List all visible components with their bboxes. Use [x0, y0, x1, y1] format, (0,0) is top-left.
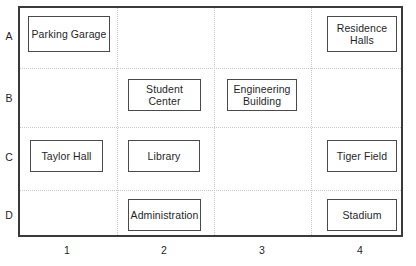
- building-box-residence-halls[interactable]: Residence Halls: [327, 16, 397, 52]
- building-label: Taylor Hall: [41, 150, 91, 163]
- building-label: Student Center: [146, 83, 183, 108]
- building-box-library[interactable]: Library: [128, 140, 200, 172]
- building-box-taylor-hall[interactable]: Taylor Hall: [30, 140, 103, 172]
- x-tick-label-3: 3: [247, 244, 277, 256]
- building-label: Library: [148, 150, 181, 163]
- grid-line-vertical-3: [311, 8, 312, 235]
- x-tick-label-2: 2: [149, 244, 179, 256]
- grid-line-vertical-2: [214, 8, 215, 235]
- x-tick-label-1: 1: [52, 244, 82, 256]
- grid-line-horizontal-1: [20, 68, 401, 69]
- campus-grid-map: Parking GarageResidence HallsStudent Cen…: [0, 0, 416, 266]
- building-label: Parking Garage: [32, 28, 107, 41]
- building-label: Tiger Field: [337, 150, 387, 163]
- y-tick-label-B: B: [2, 92, 16, 104]
- building-box-administration[interactable]: Administration: [128, 199, 201, 231]
- building-box-stadium[interactable]: Stadium: [327, 199, 397, 231]
- building-label: Residence Halls: [337, 22, 388, 47]
- building-label: Administration: [131, 209, 199, 222]
- y-tick-label-A: A: [2, 30, 16, 42]
- building-box-parking-garage[interactable]: Parking Garage: [28, 16, 110, 52]
- y-tick-label-D: D: [2, 209, 16, 221]
- building-box-student-center[interactable]: Student Center: [128, 79, 201, 111]
- grid-line-vertical-1: [117, 8, 118, 235]
- grid-line-horizontal-3: [20, 190, 401, 191]
- map-plot-frame: Parking GarageResidence HallsStudent Cen…: [18, 6, 403, 237]
- building-label: Engineering Building: [233, 83, 290, 108]
- y-tick-label-C: C: [2, 151, 16, 163]
- building-label: Stadium: [342, 209, 381, 222]
- building-box-engineering-building[interactable]: Engineering Building: [227, 79, 297, 111]
- building-box-tiger-field[interactable]: Tiger Field: [327, 140, 397, 172]
- grid-line-horizontal-2: [20, 127, 401, 128]
- x-tick-label-4: 4: [345, 244, 375, 256]
